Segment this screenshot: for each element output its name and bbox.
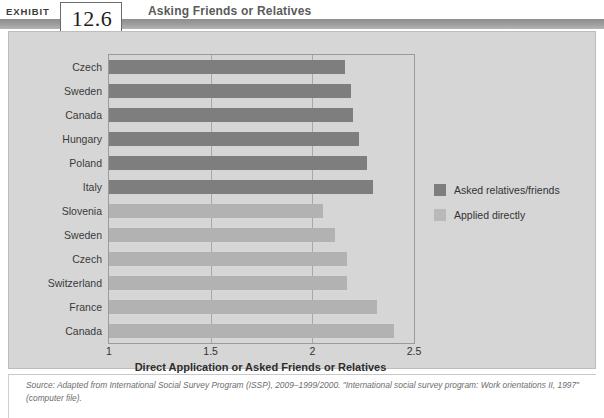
bar-row: Sweden: [109, 223, 414, 247]
page-title: Asking Friends or Relatives: [148, 4, 311, 18]
exhibit-word-label: EXHIBIT: [6, 6, 50, 17]
bar-asked-relatives: [109, 108, 353, 122]
category-label: Canada: [65, 319, 109, 343]
chart-legend: Asked relatives/friendsApplied directly: [434, 184, 560, 234]
category-label: Hungary: [62, 127, 109, 151]
x-axis-title: Direct Application or Asked Friends or R…: [108, 361, 413, 373]
bar-applied-directly: [109, 276, 347, 290]
category-label: Canada: [65, 103, 109, 127]
bar-asked-relatives: [109, 156, 367, 170]
legend-swatch-icon: [434, 184, 446, 196]
chart-plot-area: CzechSwedenCanadaHungaryPolandItalySlove…: [108, 54, 415, 344]
bar-row: Slovenia: [109, 199, 414, 223]
category-label: Sweden: [64, 223, 109, 247]
legend-swatch-icon: [434, 209, 446, 221]
bar-asked-relatives: [109, 60, 345, 74]
bar-row: Switzerland: [109, 271, 414, 295]
category-label: Czech: [72, 247, 109, 271]
bar-row: Canada: [109, 319, 414, 343]
x-axis-tick-label: 2: [309, 345, 315, 357]
legend-label: Asked relatives/friends: [454, 184, 560, 196]
bar-row: Hungary: [109, 127, 414, 151]
bar-row: Poland: [109, 151, 414, 175]
category-label: France: [69, 295, 109, 319]
source-divider: [8, 374, 596, 375]
category-label: Czech: [72, 55, 109, 79]
bar-applied-directly: [109, 324, 394, 338]
left-rule: [8, 374, 9, 418]
category-label: Italy: [83, 175, 109, 199]
bar-applied-directly: [109, 228, 335, 242]
exhibit-header: EXHIBIT 12.6 Asking Friends or Relatives: [0, 0, 604, 22]
bar-row: Canada: [109, 103, 414, 127]
bar-applied-directly: [109, 300, 377, 314]
source-note: Source: Adapted from International Socia…: [26, 379, 582, 404]
category-label: Switzerland: [48, 271, 109, 295]
x-axis-tick-label: 1: [106, 345, 112, 357]
category-label: Slovenia: [62, 199, 109, 223]
bar-applied-directly: [109, 204, 323, 218]
bar-asked-relatives: [109, 84, 351, 98]
bar-row: Czech: [109, 247, 414, 271]
bar-asked-relatives: [109, 132, 359, 146]
x-axis-tick-label: 1.5: [203, 345, 218, 357]
bar-row: France: [109, 295, 414, 319]
legend-item: Applied directly: [434, 209, 560, 221]
bar-asked-relatives: [109, 180, 373, 194]
bar-row: Sweden: [109, 79, 414, 103]
exhibit-number-box: 12.6: [60, 2, 122, 34]
legend-item: Asked relatives/friends: [434, 184, 560, 196]
bar-applied-directly: [109, 252, 347, 266]
bar-row: Czech: [109, 55, 414, 79]
bar-row: Italy: [109, 175, 414, 199]
x-axis-tick-label: 2.5: [407, 345, 422, 357]
category-label: Poland: [69, 151, 109, 175]
legend-label: Applied directly: [454, 209, 525, 221]
figure-panel: CzechSwedenCanadaHungaryPolandItalySlove…: [8, 31, 596, 369]
category-label: Sweden: [64, 79, 109, 103]
